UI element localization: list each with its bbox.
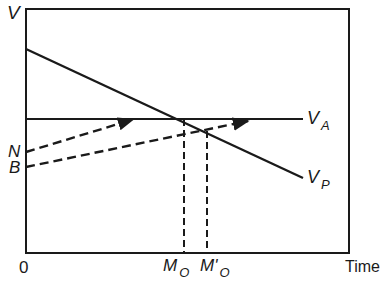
va-label-main: V: [307, 108, 319, 128]
vp-label-sub: P: [321, 177, 330, 192]
mo-label-sub: O: [179, 265, 189, 280]
x-axis-label: Time: [345, 259, 380, 275]
b-dashed-path: [26, 121, 248, 167]
va-label: VA: [307, 109, 330, 127]
mpo-label-main: M': [200, 256, 217, 275]
vp-label: VP: [307, 168, 330, 186]
mpo-label: M'O: [200, 257, 230, 274]
origin-label: 0: [19, 259, 28, 276]
mo-label-main: M: [163, 256, 177, 275]
plot-frame: [26, 9, 349, 253]
diagram-canvas: [0, 0, 388, 296]
va-label-sub: A: [321, 118, 330, 133]
point-b-label: B: [9, 159, 20, 176]
mpo-label-sub: O: [219, 265, 229, 280]
mo-label: MO: [163, 257, 189, 274]
n-dashed-path: [26, 120, 133, 153]
vp-label-main: V: [307, 167, 319, 187]
y-axis-label: V: [7, 3, 20, 22]
